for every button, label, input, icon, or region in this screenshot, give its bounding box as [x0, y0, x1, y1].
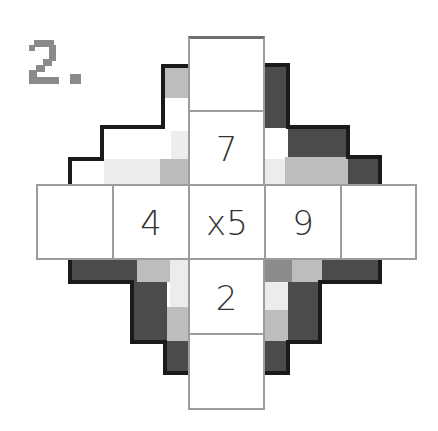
cell-bottom-inner[interactable]: 2: [188, 258, 265, 335]
center-value: x5: [206, 203, 248, 243]
cell-top-inner[interactable]: 7: [188, 110, 265, 186]
cell-center-multiplier: x5: [188, 184, 266, 260]
cell-value: 7: [216, 129, 238, 169]
cell-value: 9: [292, 203, 314, 243]
cell-left-outer[interactable]: [36, 184, 114, 260]
cell-left-inner[interactable]: 4: [112, 184, 190, 260]
cell-right-outer[interactable]: [340, 184, 417, 260]
cell-bottom-outer[interactable]: [188, 333, 265, 410]
cell-value: 4: [140, 203, 162, 243]
cell-right-inner[interactable]: 9: [264, 184, 342, 260]
cell-value: 2: [216, 278, 238, 318]
cell-top-outer[interactable]: [188, 36, 265, 112]
